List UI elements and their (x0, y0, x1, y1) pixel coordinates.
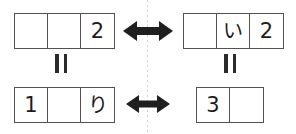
equals-bar (55, 54, 59, 73)
equals-bar (224, 54, 228, 73)
cell[interactable]: 3 (197, 88, 230, 122)
cell[interactable] (184, 14, 217, 48)
cell-strip-bottom-right: 3 (196, 87, 264, 123)
equals-sign-left (55, 54, 67, 73)
equals-sign-right (224, 54, 236, 73)
equals-bar (233, 54, 237, 73)
cell[interactable]: 1 (15, 88, 48, 122)
cell[interactable]: 2 (81, 14, 114, 48)
double-arrow-icon (123, 20, 173, 42)
cell-strip-top-right: い 2 (183, 13, 284, 49)
cell[interactable]: り (81, 88, 114, 122)
equals-bar (64, 54, 68, 73)
cell[interactable] (48, 14, 81, 48)
cell[interactable] (48, 88, 81, 122)
cell[interactable] (15, 14, 48, 48)
cell[interactable]: 2 (250, 14, 283, 48)
cell[interactable] (230, 88, 263, 122)
double-arrow-icon (126, 94, 170, 114)
cell-strip-top-left: 2 (14, 13, 115, 49)
cell[interactable]: い (217, 14, 250, 48)
cell-strip-bottom-left: 1 り (14, 87, 115, 123)
diagram-canvas: 2 い 2 1 り 3 (0, 0, 296, 134)
